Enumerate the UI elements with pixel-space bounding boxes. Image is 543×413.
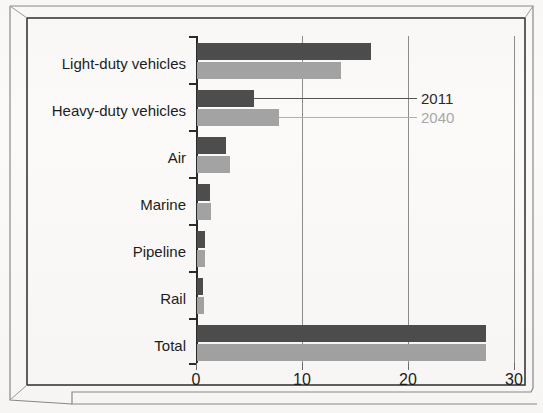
bar-2040-total — [197, 344, 486, 361]
x-axis-tick — [302, 363, 303, 370]
y-axis-tick — [189, 318, 196, 320]
bar-2040-marine — [197, 203, 211, 220]
bar-2011-rail — [197, 278, 203, 295]
gridline-30 — [514, 36, 515, 363]
bar-2011-air — [197, 137, 226, 154]
bar-2011-light-duty-vehicles — [197, 43, 371, 60]
y-axis-label-air: Air — [0, 149, 186, 166]
y-axis-label-pipeline: Pipeline — [0, 243, 186, 260]
y-axis-tick — [189, 363, 196, 365]
gridline-10 — [302, 36, 303, 363]
y-axis-label-heavy-duty-vehicles: Heavy-duty vehicles — [0, 102, 186, 119]
x-axis-tick-label-20: 20 — [388, 371, 428, 389]
bar-2011-heavy-duty-vehicles — [197, 90, 254, 107]
chart-figure: Light-duty vehicles Heavy-duty vehicles … — [0, 0, 543, 413]
bar-2040-light-duty-vehicles — [197, 62, 341, 79]
bar-2040-pipeline — [197, 250, 205, 267]
bar-2011-marine — [197, 184, 210, 201]
y-axis-tick — [189, 83, 196, 85]
bar-2040-rail — [197, 297, 204, 314]
y-axis-tick — [189, 224, 196, 226]
y-axis-tick — [189, 36, 196, 38]
y-axis-tick — [189, 271, 196, 273]
y-axis-label-marine: Marine — [0, 196, 186, 213]
x-axis-tick — [514, 363, 515, 370]
x-axis-tick — [196, 363, 197, 370]
legend-leader-line-2011 — [254, 98, 417, 99]
y-axis-label-light-duty-vehicles: Light-duty vehicles — [0, 55, 186, 72]
legend-label-2011: 2011 — [421, 90, 453, 107]
bar-2040-air — [197, 156, 230, 173]
gridline-20 — [408, 36, 409, 363]
bar-2011-total — [197, 325, 486, 342]
y-axis-label-rail: Rail — [0, 290, 186, 307]
x-axis-tick — [408, 363, 409, 370]
x-axis-tick-label-10: 10 — [282, 371, 322, 389]
y-axis-tick — [189, 177, 196, 179]
legend-leader-line-2040 — [279, 117, 417, 118]
y-axis-label-total: Total — [0, 337, 186, 354]
y-axis-tick — [189, 130, 196, 132]
x-axis-tick-label-0: 0 — [176, 371, 216, 389]
bar-2011-pipeline — [197, 231, 205, 248]
legend-label-2040: 2040 — [421, 109, 454, 126]
x-axis-tick-label-30: 30 — [494, 371, 534, 389]
bar-2040-heavy-duty-vehicles — [197, 109, 279, 126]
